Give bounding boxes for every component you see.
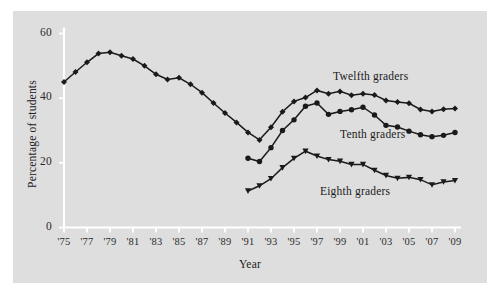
y-tick-label: 0	[26, 220, 52, 232]
series-label-2: Tenth graders	[340, 128, 405, 140]
series-label-3: Eighth graders	[320, 185, 390, 197]
series-label-1: Twelfth graders	[333, 70, 408, 82]
x-axis-label: Year	[0, 258, 500, 270]
x-tick-label: '09	[442, 236, 468, 247]
y-tick-label: 60	[26, 26, 52, 38]
y-axis-label: Percentage of students	[26, 54, 38, 214]
chart-figure: 0204060 '75'77'79'81'83'85'87'89'91'93'9…	[0, 0, 500, 295]
